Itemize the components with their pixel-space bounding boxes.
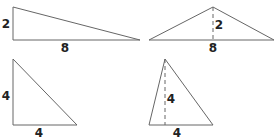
triangle-outline: [149, 7, 274, 40]
dimension-label: 8: [209, 41, 217, 55]
triangles-diagram: 28284444: [0, 0, 277, 138]
triangle-outline: [149, 59, 213, 125]
dimension-label: 4: [167, 92, 175, 106]
dimension-label: 4: [35, 126, 43, 138]
triangle-outline: [13, 7, 140, 40]
acute-triangle-4x4: 44: [149, 59, 213, 138]
dimension-label: 8: [61, 41, 69, 55]
right-triangle-2x8: 28: [2, 7, 140, 55]
dimension-label: 4: [173, 126, 181, 138]
right-triangle-4x4: 44: [2, 59, 77, 138]
dimension-label: 2: [215, 18, 223, 32]
dimension-label: 4: [2, 89, 10, 103]
obtuse-triangle-2x8: 28: [149, 7, 274, 55]
triangle-outline: [13, 59, 77, 125]
dimension-label: 2: [2, 17, 10, 31]
